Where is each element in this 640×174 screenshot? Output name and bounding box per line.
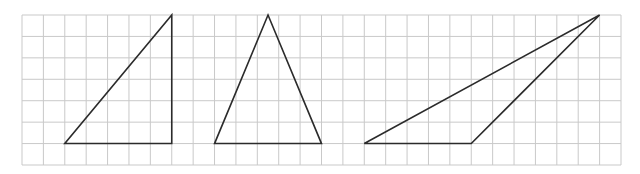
grid-diagram xyxy=(0,0,640,174)
